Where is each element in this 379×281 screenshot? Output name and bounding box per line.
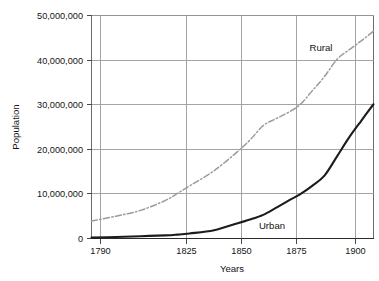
series-annotation-urban: Urban xyxy=(259,220,285,231)
x-axis-title: Years xyxy=(220,263,244,274)
x-tick-label-1825: 1825 xyxy=(176,246,196,256)
y-tick-label-40000000: 40,000,000 xyxy=(37,56,83,66)
chart-canvas: 50,000,000 40,000,000 30,000,000 20,000,… xyxy=(0,0,379,281)
y-tick-label-30000000: 30,000,000 xyxy=(37,100,83,110)
x-tick-label-1850: 1850 xyxy=(231,246,251,256)
series-annotation-rural: Rural xyxy=(310,42,333,53)
y-tick-label-50000000: 50,000,000 xyxy=(37,11,83,21)
y-tick-label-0: 0 xyxy=(78,234,83,244)
y-tick-label-10000000: 10,000,000 xyxy=(37,189,83,199)
population-line-chart: 50,000,000 40,000,000 30,000,000 20,000,… xyxy=(0,0,379,281)
x-tick-label-1900: 1900 xyxy=(345,246,365,256)
y-axis-title: Population xyxy=(10,104,21,149)
x-tick-label-1875: 1875 xyxy=(286,246,306,256)
x-tick-label-1790: 1790 xyxy=(90,246,110,256)
y-tick-label-20000000: 20,000,000 xyxy=(37,145,83,155)
